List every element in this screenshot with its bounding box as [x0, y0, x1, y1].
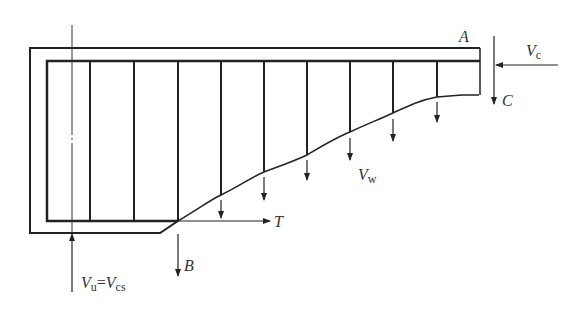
label-Vc: Vc [526, 42, 541, 62]
beam-shear-diagram: A C T B Vc Vw Vu=Vcs [0, 0, 582, 312]
label-T: T [274, 213, 284, 230]
label-A: A [458, 28, 469, 45]
label-B: B [184, 257, 194, 274]
label-C: C [502, 92, 513, 109]
label-Vu-eq-Vcs: Vu=Vcs [81, 274, 126, 294]
beam-outer-outline [30, 48, 480, 233]
label-Vw: Vw [358, 166, 377, 186]
diagonal-crack [178, 95, 479, 221]
stirrup-force-arrows [221, 102, 437, 218]
